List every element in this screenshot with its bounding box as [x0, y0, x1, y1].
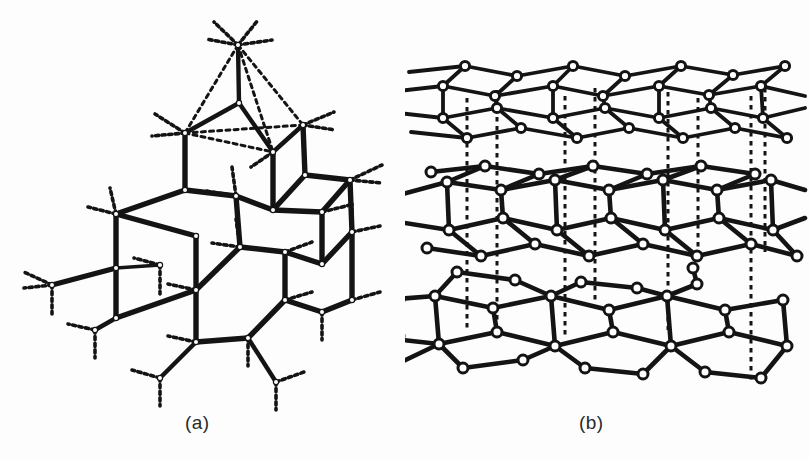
caption-panel-a: (a) [185, 412, 209, 434]
caption-panel-b: (b) [579, 412, 603, 434]
graphite-lattice-svg: .gb { stroke:#141414; stroke-width:4.6; … [405, 0, 809, 461]
graphite-layer-middle [405, 161, 805, 261]
figure-canvas: .bond { stroke:#141414; stroke-linecap:r… [0, 0, 809, 461]
diamond-tetrahedron-guides [185, 45, 303, 152]
diamond-lattice-svg: .bond { stroke:#141414; stroke-linecap:r… [0, 0, 405, 461]
graphite-layer-bottom [405, 263, 792, 383]
panel-diamond: .bond { stroke:#141414; stroke-linecap:r… [0, 0, 405, 461]
diamond-open-bond-stubs [24, 20, 382, 410]
graphite-layer-top [405, 61, 805, 142]
panel-graphite: .gb { stroke:#141414; stroke-width:4.6; … [405, 0, 809, 461]
